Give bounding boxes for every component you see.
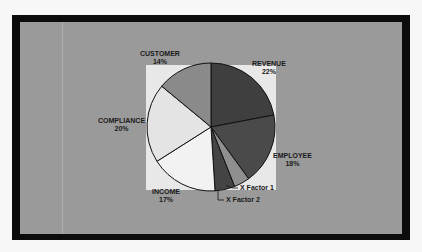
label-revenue-name: REVENUE [252, 60, 286, 67]
label-customer-name: CUSTOMER [140, 50, 180, 57]
label-xfactor2: X Factor 2 [226, 196, 260, 203]
label-customer: CUSTOMER 14% [140, 50, 180, 66]
label-revenue-pct: 22% [252, 68, 286, 76]
label-revenue: REVENUE 22% [252, 60, 286, 76]
label-employee-pct: 18% [273, 160, 312, 168]
label-customer-pct: 14% [140, 58, 180, 66]
label-income-pct: 17% [152, 196, 180, 204]
label-employee: EMPLOYEE 18% [273, 152, 312, 168]
xfactor2-leader [218, 190, 224, 200]
label-compliance-pct: 20% [98, 125, 145, 133]
label-compliance: COMPLIANCE 20% [98, 117, 145, 133]
label-xfactor1: X Factor 1 [240, 184, 274, 191]
label-compliance-name: COMPLIANCE [98, 117, 145, 124]
label-employee-name: EMPLOYEE [273, 152, 312, 159]
pie-chart [0, 0, 422, 252]
label-income-name: INCOME [152, 188, 180, 195]
label-income: INCOME 17% [152, 188, 180, 204]
